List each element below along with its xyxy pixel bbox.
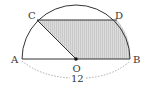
semicircle-diagram: A B C D O 12 xyxy=(0,0,146,93)
label-b: B xyxy=(133,54,140,65)
dimension-arc xyxy=(22,61,70,78)
label-d: D xyxy=(115,10,123,21)
dimension-arc-right xyxy=(86,61,130,78)
center-point-o xyxy=(74,57,78,61)
dimension-label: 12 xyxy=(71,73,84,84)
label-a: A xyxy=(10,54,19,65)
shaded-region xyxy=(37,20,130,59)
label-c: C xyxy=(28,10,36,21)
